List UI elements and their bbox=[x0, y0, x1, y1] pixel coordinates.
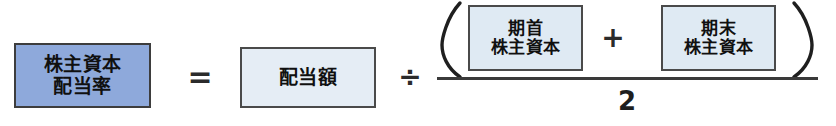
formula-diagram: 株主資本 配当率 = 配当額 ÷ 期首 株主資本 + 期末 株主資本 2 bbox=[0, 0, 836, 126]
fraction-bar bbox=[437, 77, 818, 80]
term-label-line-2: 配当率 bbox=[53, 76, 112, 97]
term-label-line-1: 配当額 bbox=[279, 67, 338, 88]
divide-operator: ÷ bbox=[392, 63, 428, 91]
term-label-line-1: 株主資本 bbox=[44, 54, 122, 75]
fraction-denominator: 2 bbox=[437, 86, 818, 116]
paren-close-icon bbox=[788, 0, 818, 80]
term-label-line-2: 株主資本 bbox=[491, 38, 561, 57]
plus-operator: + bbox=[596, 24, 630, 52]
term-label-line-1: 期末 bbox=[701, 19, 736, 38]
paren-open-icon bbox=[436, 0, 466, 80]
term-dividend-amount: 配当額 bbox=[240, 47, 376, 108]
equals-operator: = bbox=[180, 62, 220, 92]
term-label-line-1: 期首 bbox=[508, 19, 543, 38]
term-label-line-2: 株主資本 bbox=[684, 38, 754, 57]
term-ending-shareholders-equity: 期末 株主資本 bbox=[661, 5, 776, 71]
term-shareholders-equity-dividend-rate: 株主資本 配当率 bbox=[14, 43, 151, 108]
term-beginning-shareholders-equity: 期首 株主資本 bbox=[468, 5, 583, 71]
